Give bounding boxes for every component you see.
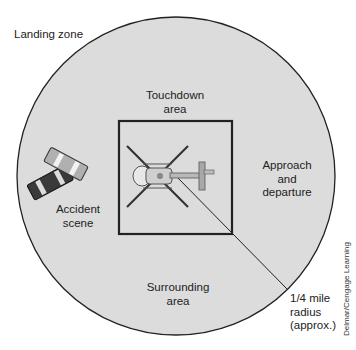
landing-zone-label: Landing zone bbox=[14, 28, 83, 42]
surrounding-area-label: Surrounding area bbox=[138, 281, 218, 308]
radius-label: 1/4 mile radius (approx.) bbox=[290, 292, 336, 333]
credit-text: Delmar/Cengage Learning bbox=[342, 242, 351, 336]
touchdown-area-label: Touchdown area bbox=[140, 89, 210, 116]
approach-departure-label: Approach and departure bbox=[252, 159, 322, 200]
accident-scene-label: Accident scene bbox=[48, 203, 108, 230]
